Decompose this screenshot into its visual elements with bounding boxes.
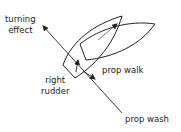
label-line: turning bbox=[5, 14, 36, 25]
rudder-force-arrow bbox=[76, 60, 78, 72]
prop-walk-arrow bbox=[83, 71, 95, 79]
label-line: rudder bbox=[41, 86, 69, 97]
label-prop-wash: prop wash bbox=[125, 114, 169, 125]
label-turning-effect: turning effect bbox=[5, 14, 36, 36]
label-line: effect bbox=[5, 25, 36, 36]
label-prop-walk: prop walk bbox=[102, 65, 143, 76]
label-right-rudder: right rudder bbox=[41, 75, 69, 97]
label-line: right bbox=[41, 75, 69, 86]
